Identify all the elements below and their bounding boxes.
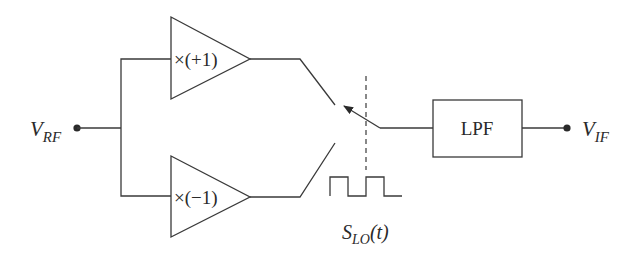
- switch-contact-top: [250, 59, 335, 105]
- switch-arm: [344, 106, 380, 128]
- square-wave-icon: [330, 177, 402, 196]
- amplifier-bottom-label: ×(−1): [174, 187, 218, 209]
- lpf-label: LPF: [461, 118, 494, 139]
- output-terminal: [563, 124, 570, 131]
- mixer-diagram: VRF ×(+1) ×(−1) SLO(t) LPF VIF: [0, 0, 637, 253]
- split-bus: [121, 59, 171, 196]
- input-label: VRF: [30, 117, 62, 145]
- lo-signal-label: SLO(t): [342, 221, 389, 247]
- amplifier-top-label: ×(+1): [174, 49, 218, 71]
- output-label: VIF: [582, 117, 610, 145]
- switch-contact-bottom: [250, 143, 335, 197]
